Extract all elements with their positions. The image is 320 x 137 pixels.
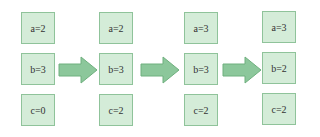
- right-arrow-icon: [58, 56, 98, 84]
- right-arrow-icon: [222, 56, 262, 84]
- var-b-label: b=3: [193, 64, 209, 75]
- var-b-label: b=3: [108, 64, 124, 75]
- var-a-box: a=3: [262, 11, 296, 43]
- var-a-box: a=3: [184, 12, 218, 44]
- var-a-label: a=2: [108, 23, 123, 34]
- var-a-box: a=2: [21, 12, 55, 44]
- right-arrow-icon: [140, 56, 180, 84]
- var-a-label: a=3: [193, 23, 208, 34]
- var-c-label: c=2: [108, 105, 123, 116]
- var-c-box: c=2: [184, 94, 218, 126]
- var-c-box: c=0: [21, 94, 55, 126]
- var-c-label: c=2: [271, 104, 286, 115]
- var-a-label: a=2: [30, 23, 45, 34]
- var-b-box: b=3: [99, 53, 133, 85]
- var-a-label: a=3: [271, 22, 286, 33]
- var-b-label: b=3: [30, 64, 46, 75]
- var-c-box: c=2: [99, 94, 133, 126]
- var-c-label: c=0: [30, 105, 45, 116]
- var-b-box: b=3: [184, 53, 218, 85]
- var-b-label: b=2: [271, 63, 287, 74]
- var-c-box: c=2: [262, 93, 296, 125]
- var-b-box: b=2: [262, 52, 296, 84]
- var-b-box: b=3: [21, 53, 55, 85]
- var-a-box: a=2: [99, 12, 133, 44]
- var-c-label: c=2: [193, 105, 208, 116]
